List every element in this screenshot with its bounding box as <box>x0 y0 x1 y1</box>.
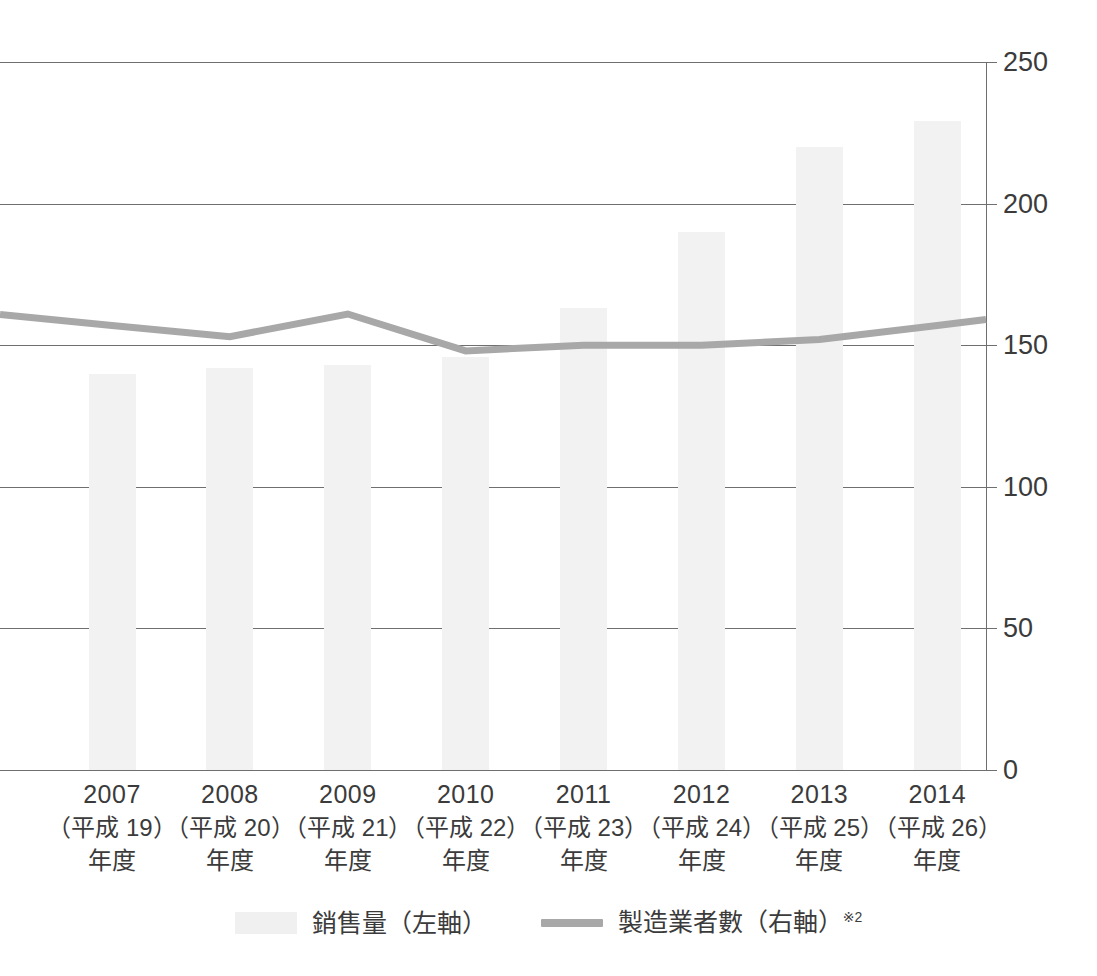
y-tick-label-200: 200 <box>1003 191 1048 218</box>
x-axis-line <box>0 770 987 771</box>
y-tick-label-250: 250 <box>1003 49 1048 76</box>
legend-item-bar[interactable]: 銷售量（左軸） <box>235 911 487 936</box>
x-axis-labels: 2007（平成 19）年度2008（平成 20）年度2009（平成 21）年度2… <box>0 778 987 888</box>
y-tick-label-150: 150 <box>1003 332 1048 359</box>
tick-0 <box>987 770 997 771</box>
bar-2010 <box>442 357 489 770</box>
bar-2013 <box>796 147 843 770</box>
tick-50 <box>987 628 997 629</box>
legend-line-label: 製造業者數（右軸）※2 <box>618 910 863 935</box>
bar-2011 <box>560 308 607 770</box>
legend-line-swatch-icon <box>541 919 603 927</box>
y-tick-label-100: 100 <box>1003 474 1048 501</box>
tick-100 <box>987 487 997 488</box>
tick-250 <box>987 62 997 63</box>
bar-2012 <box>678 232 725 770</box>
x-label-year: 2014 <box>862 778 1012 811</box>
legend-line-label-text: 製造業者數（右軸） <box>618 909 843 937</box>
chart-container: 250 200 150 100 50 0 2007（平成 19）年度2008（平… <box>0 0 1097 976</box>
chart-legend: 銷售量（左軸） 製造業者數（右軸）※2 <box>0 898 1097 948</box>
bar-2008 <box>206 368 253 770</box>
bar-2007 <box>89 374 136 770</box>
tick-150 <box>987 345 997 346</box>
tick-200 <box>987 204 997 205</box>
bar-2009 <box>324 365 371 770</box>
x-label-unit: 年度 <box>862 844 1012 877</box>
legend-bar-swatch-icon <box>235 912 297 934</box>
y-axis-right-line <box>986 62 987 771</box>
gridline-250 <box>0 62 987 63</box>
x-axis-label-2014: 2014（平成 26）年度 <box>862 778 1012 877</box>
legend-line-note: ※2 <box>843 909 863 925</box>
legend-bar-label: 銷售量（左軸） <box>312 911 487 936</box>
y-tick-label-50: 50 <box>1003 615 1033 642</box>
bar-2014 <box>914 121 961 770</box>
legend-item-line[interactable]: 製造業者數（右軸）※2 <box>541 910 863 935</box>
x-label-era: （平成 26） <box>862 811 1012 844</box>
